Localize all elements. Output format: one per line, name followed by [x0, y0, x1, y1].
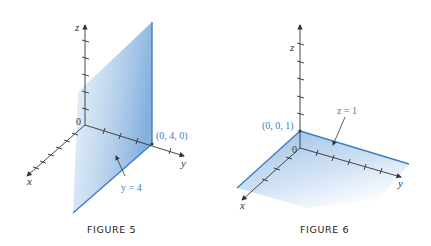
plane-label-leader — [333, 117, 345, 145]
origin-label: 0 — [292, 144, 297, 155]
x-axis-label: x — [26, 175, 32, 187]
z-axis-ticks — [297, 43, 304, 115]
figures-canvas: z x y 0 (0, 4, 0) y = 4 FIGURE — [0, 0, 431, 246]
z-axis-label: z — [74, 21, 80, 33]
plane-z1 — [237, 131, 409, 208]
point-label: (0, 4, 0) — [156, 130, 188, 142]
point-label: (0, 0, 1) — [262, 120, 294, 132]
figure-5: z x y 0 (0, 4, 0) y = 4 FIGURE — [26, 21, 188, 235]
point-0-4-0 — [150, 142, 153, 145]
z-axis-label: z — [289, 41, 295, 53]
plane-label: z = 1 — [337, 105, 357, 116]
point-0-0-1 — [298, 129, 301, 132]
plane-label: y = 4 — [121, 182, 142, 193]
figure-caption: FIGURE 6 — [300, 224, 349, 235]
x-axis-label: x — [239, 199, 245, 211]
figure-6: z x y 0 (0, 0, 1) z = 1 FIGURE 6 — [237, 25, 409, 235]
y-axis-label: y — [397, 177, 403, 189]
origin-label: 0 — [76, 116, 81, 127]
figure-caption: FIGURE 5 — [87, 224, 136, 235]
y-axis-label: y — [180, 157, 186, 169]
